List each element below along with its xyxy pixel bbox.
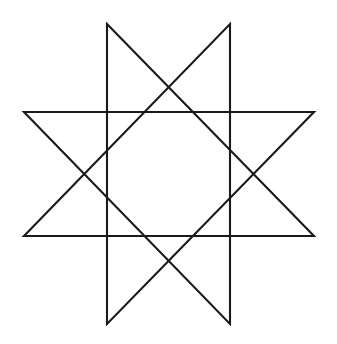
octagram-svg: Eight-pointed star polygon: [0, 0, 337, 344]
octagram-star-path: [24, 24, 314, 324]
octagram-figure-canvas: Eight-pointed star polygon: [0, 0, 337, 344]
